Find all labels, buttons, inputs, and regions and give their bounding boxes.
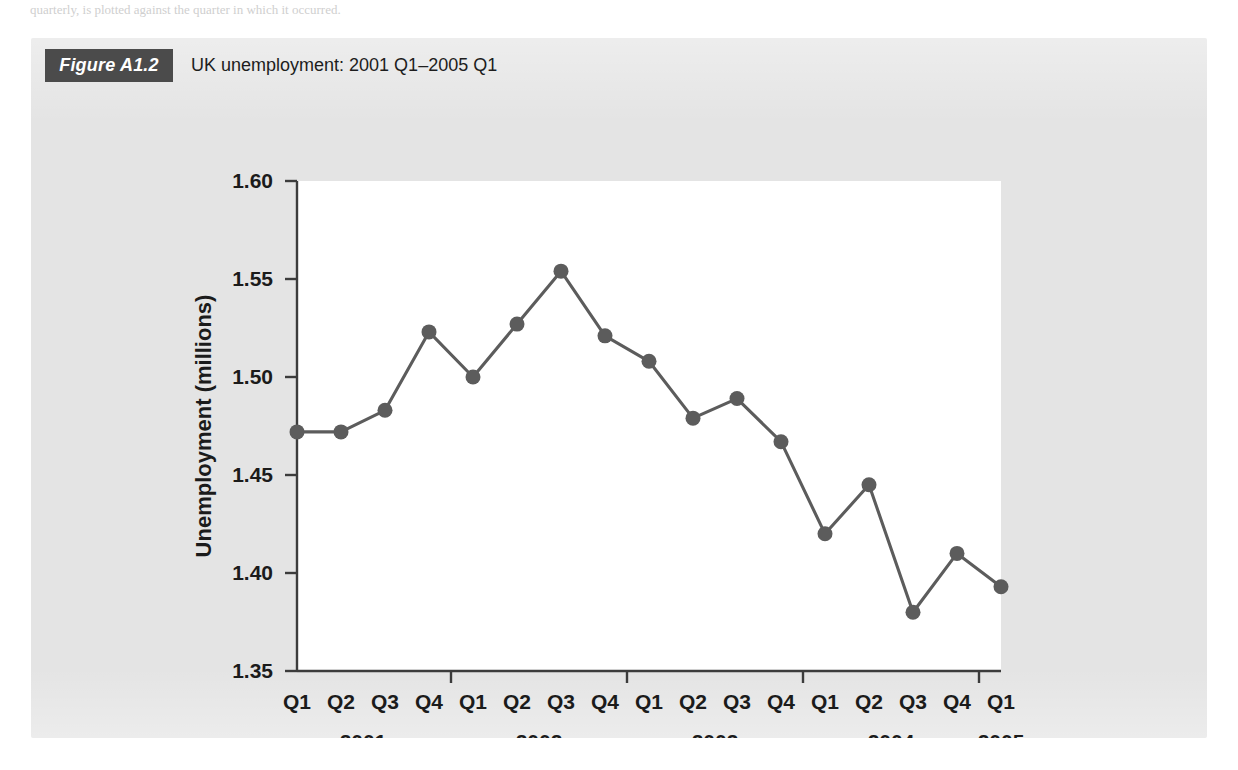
x-tick-label-5: Q2 — [503, 690, 531, 713]
data-point-2001-Q3 — [378, 403, 393, 418]
data-point-2002-Q1 — [466, 370, 481, 385]
x-tick-label-13: Q2 — [855, 690, 883, 713]
x-tick-label-12: Q1 — [811, 690, 839, 713]
y-tick-label-1.60: 1.60 — [232, 169, 273, 192]
x-axis-year-label-2003: 2003 — [692, 730, 739, 738]
data-point-2004-Q1 — [818, 526, 833, 541]
x-tick-label-4: Q1 — [459, 690, 487, 713]
x-tick-label-7: Q4 — [591, 690, 619, 713]
y-tick-label-1.50: 1.50 — [232, 365, 273, 388]
data-point-2003-Q2 — [686, 411, 701, 426]
x-tick-label-10: Q3 — [723, 690, 751, 713]
x-tick-label-2: Q3 — [371, 690, 399, 713]
y-tick-label-1.35: 1.35 — [232, 659, 273, 682]
x-tick-label-15: Q4 — [943, 690, 971, 713]
figure-panel: Figure A1.2 UK unemployment: 2001 Q1–200… — [31, 38, 1207, 738]
data-point-2004-Q3 — [906, 605, 921, 620]
x-tick-label-6: Q3 — [547, 690, 575, 713]
plot-background — [297, 181, 1001, 671]
data-point-2003-Q4 — [774, 434, 789, 449]
y-tick-label-1.55: 1.55 — [232, 267, 273, 290]
x-tick-label-11: Q4 — [767, 690, 795, 713]
x-axis-year-label-2002: 2002 — [516, 730, 563, 738]
data-point-2002-Q3 — [554, 264, 569, 279]
chart-area: 1.351.401.451.501.551.60 Q1Q2Q3Q4Q1Q2Q3Q… — [31, 90, 1207, 738]
x-axis-year-labels: 20012002200320042005 — [340, 730, 1025, 738]
x-axis-tick-labels: Q1Q2Q3Q4Q1Q2Q3Q4Q1Q2Q3Q4Q1Q2Q3Q4Q1 — [283, 690, 1015, 713]
x-tick-label-14: Q3 — [899, 690, 927, 713]
data-point-2005-Q1 — [994, 579, 1009, 594]
data-point-2001-Q4 — [422, 324, 437, 339]
data-point-2004-Q2 — [862, 477, 877, 492]
figure-header: Figure A1.2 UK unemployment: 2001 Q1–200… — [31, 38, 1207, 90]
x-tick-label-9: Q2 — [679, 690, 707, 713]
x-tick-label-16: Q1 — [987, 690, 1015, 713]
y-tick-label-1.45: 1.45 — [232, 463, 273, 486]
figure-title: UK unemployment: 2001 Q1–2005 Q1 — [191, 55, 497, 76]
data-point-2003-Q3 — [730, 391, 745, 406]
data-point-2003-Q1 — [642, 354, 657, 369]
line-chart: 1.351.401.451.501.551.60 Q1Q2Q3Q4Q1Q2Q3Q… — [31, 90, 1207, 738]
x-axis-year-label-2001: 2001 — [340, 730, 387, 738]
figure-number-label: Figure A1.2 — [59, 55, 159, 76]
x-axis-year-label-2005: 2005 — [978, 730, 1025, 738]
x-tick-label-3: Q4 — [415, 690, 443, 713]
x-axis-ticks — [451, 671, 979, 683]
page-ghost-text-top: quarterly, is plotted against the quarte… — [30, 2, 341, 18]
data-point-2001-Q1 — [290, 424, 305, 439]
y-axis-tick-labels: 1.351.401.451.501.551.60 — [232, 169, 273, 682]
y-axis-title: Unemployment (millions) — [191, 295, 216, 558]
figure-number-badge: Figure A1.2 — [45, 49, 173, 82]
data-point-2001-Q2 — [334, 424, 349, 439]
data-point-2004-Q4 — [950, 546, 965, 561]
x-tick-label-1: Q2 — [327, 690, 355, 713]
y-tick-label-1.40: 1.40 — [232, 561, 273, 584]
page-root: quarterly, is plotted against the quarte… — [0, 0, 1238, 770]
data-point-2002-Q4 — [598, 328, 613, 343]
x-axis-year-label-2004: 2004 — [868, 730, 915, 738]
x-tick-label-8: Q1 — [635, 690, 663, 713]
x-tick-label-0: Q1 — [283, 690, 311, 713]
data-point-2002-Q2 — [510, 317, 525, 332]
